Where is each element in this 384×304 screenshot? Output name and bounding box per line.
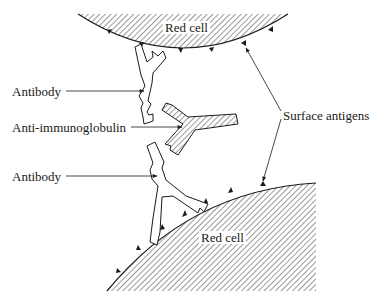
red-cell-bottom-label: Red cell (199, 231, 246, 244)
anti-immunoglobulin-shape (162, 103, 238, 155)
antibody-bottom-label: Antibody (12, 170, 61, 183)
surface-antigens-arrow-bottom (263, 119, 281, 181)
surface-antigens-label: Surface antigens (283, 109, 369, 122)
antibody-top-label: Antibody (12, 85, 61, 98)
surface-antigens-arrow-top (246, 48, 281, 111)
anti-immunoglobulin-label: Anti-immunoglobulin (12, 121, 126, 134)
diagram-canvas (0, 0, 384, 304)
antibody-top-shape (135, 44, 166, 124)
red-cell-top-label: Red cell (163, 21, 210, 34)
